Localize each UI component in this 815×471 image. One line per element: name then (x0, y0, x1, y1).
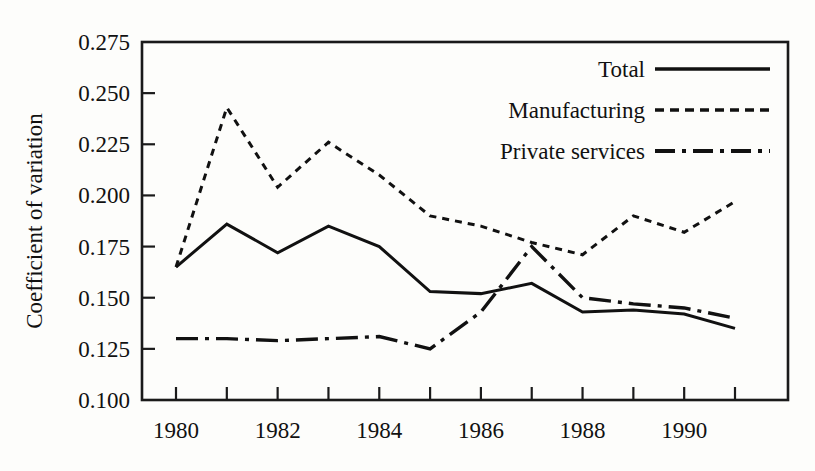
x-tick-label: 1984 (356, 418, 403, 443)
y-axis-tick-marks (142, 93, 155, 349)
legend-label-private-services: Private services (500, 139, 645, 164)
legend-label-total: Total (598, 57, 645, 82)
y-tick-label: 0.175 (78, 235, 130, 260)
x-axis-tick-marks (176, 387, 735, 400)
y-tick-label: 0.225 (78, 132, 130, 157)
series-line-private-services (176, 247, 735, 349)
x-tick-label: 1990 (661, 418, 707, 443)
y-tick-label: 0.200 (78, 183, 130, 208)
series-line-total (176, 224, 735, 328)
chart-figure: 0.1000.1250.1500.1750.2000.2250.2500.275… (0, 0, 815, 471)
x-tick-label: 1986 (458, 418, 504, 443)
y-tick-label: 0.150 (78, 286, 130, 311)
y-tick-label: 0.275 (78, 30, 130, 55)
data-series-group (176, 107, 735, 348)
line-chart-canvas: 0.1000.1250.1500.1750.2000.2250.2500.275… (0, 0, 815, 471)
plot-frame (142, 42, 788, 400)
x-tick-label: 1980 (153, 418, 199, 443)
y-axis-tick-labels: 0.1000.1250.1500.1750.2000.2250.2500.275 (78, 30, 130, 413)
legend: TotalManufacturingPrivate services (500, 57, 770, 164)
legend-label-manufacturing: Manufacturing (508, 98, 645, 123)
y-tick-label: 0.125 (78, 337, 130, 362)
x-tick-label: 1988 (560, 418, 606, 443)
x-axis-tick-labels: 198019821984198619881990 (153, 418, 707, 443)
x-tick-label: 1982 (255, 418, 301, 443)
y-tick-label: 0.100 (78, 388, 130, 413)
y-tick-label: 0.250 (78, 81, 130, 106)
y-axis-title: Coefficient of variation (22, 113, 47, 329)
